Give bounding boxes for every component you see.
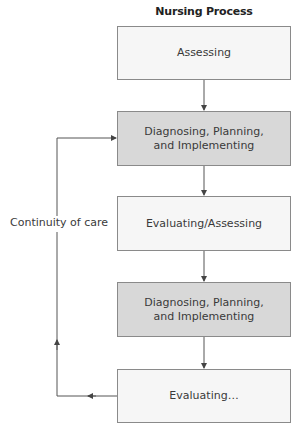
step-diagnosing-planning-implementing-1: Diagnosing, Planning, and Implementing	[117, 111, 291, 166]
continuity-of-care-label: Continuity of care	[8, 216, 110, 229]
step-label-line2: and Implementing	[144, 139, 264, 153]
step-label: Evaluating/Assessing	[146, 217, 262, 231]
step-label-line1: Diagnosing, Planning,	[144, 296, 264, 310]
step-assessing: Assessing	[117, 26, 291, 80]
step-label-line1: Diagnosing, Planning,	[144, 125, 264, 139]
step-label-line2: and Implementing	[144, 310, 264, 324]
step-diagnosing-planning-implementing-2: Diagnosing, Planning, and Implementing	[117, 282, 291, 337]
step-evaluating: Evaluating…	[117, 369, 291, 423]
step-label: Assessing	[177, 46, 231, 60]
step-evaluating-assessing: Evaluating/Assessing	[117, 196, 291, 251]
step-label: Evaluating…	[169, 389, 238, 403]
